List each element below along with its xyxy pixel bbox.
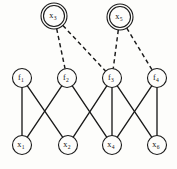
dashed-edge-x3-f2 [57, 29, 65, 69]
dashed-edge-x5-f4 [127, 28, 152, 70]
node-f1-subscript: 1 [21, 77, 24, 83]
node-f4-subscript: 4 [156, 77, 159, 83]
dashed-edge-x5-f3 [113, 30, 118, 69]
node-f3-subscript: 3 [111, 77, 114, 83]
node-x6-subscript: 6 [157, 144, 160, 150]
node-x1-subscript: 1 [22, 144, 25, 150]
node-f3[interactable]: f3 [103, 69, 122, 88]
node-f1[interactable]: f1 [13, 69, 32, 88]
node-x4[interactable]: x4 [103, 136, 122, 155]
dashed-edge-x3-f3 [63, 25, 106, 71]
graph-canvas: x3x5f1f2f3f4x1x2x4x6 [0, 0, 177, 169]
node-f2-subscript: 2 [66, 77, 69, 83]
node-x3[interactable]: x3 [41, 3, 67, 29]
node-x6[interactable]: x6 [148, 136, 167, 155]
node-x4-subscript: 4 [112, 144, 115, 150]
node-x3-subscript: 3 [54, 15, 57, 21]
node-f4[interactable]: f4 [148, 69, 167, 88]
node-x2[interactable]: x2 [59, 136, 78, 155]
node-group: x3x5f1f2f3f4x1x2x4x6 [13, 3, 167, 155]
solid-edge-group [22, 86, 157, 137]
node-x2-subscript: 2 [68, 144, 71, 150]
node-x5-subscript: 5 [120, 16, 123, 22]
node-x1[interactable]: x1 [13, 136, 32, 155]
dashed-edge-group [57, 25, 152, 71]
node-f2[interactable]: f2 [58, 69, 77, 88]
node-x5[interactable]: x5 [107, 4, 133, 30]
factor-graph-diagram: x3x5f1f2f3f4x1x2x4x6 [0, 0, 177, 169]
